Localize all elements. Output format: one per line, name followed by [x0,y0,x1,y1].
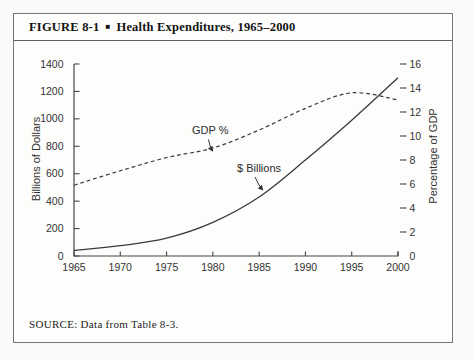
right-axis-tick-label: 14 [410,82,422,94]
left-axis-tick-label: 1400 [40,58,64,70]
right-axis-tick-label: 2 [410,226,416,238]
health-expenditures-chart: 0200400600800100012001400196519701975198… [0,0,473,360]
right-axis-tick-label: 8 [410,154,416,166]
left-axis-tick-label: 200 [46,222,64,234]
dollar-billions-line [74,78,398,251]
right-axis-tick-label: 10 [410,130,422,142]
right-axis-tick-label: 12 [410,106,422,118]
right-axis-title: Percentage of GDP [427,86,439,226]
left-axis-tick-label: 1200 [40,85,64,97]
x-axis-tick-label: 1975 [155,261,179,273]
x-axis-tick-label: 2000 [386,261,410,273]
x-axis-tick-label: 1970 [109,261,133,273]
x-axis-tick-label: 1965 [62,261,86,273]
left-axis-tick-label: 400 [46,195,64,207]
left-axis-title: Billions of Dollars [30,89,42,229]
left-axis-tick-label: 1000 [40,112,64,124]
right-axis-tick-label: 16 [410,58,422,70]
right-axis-tick-label: 6 [410,178,416,190]
right-axis-tick-label: 4 [410,202,416,214]
left-axis-tick-label: 800 [46,140,64,152]
left-axis-tick-label: 600 [46,167,64,179]
billions-annotation-arrow-icon [255,177,263,190]
gdp-percent-line [74,93,398,186]
right-axis-tick-label: 0 [410,250,416,262]
x-axis-tick-label: 1990 [294,261,318,273]
gdp-series-label: GDP % [192,124,228,136]
x-axis-tick-label: 1985 [247,261,271,273]
billions-series-label: $ Billions [237,162,281,174]
x-axis-tick-label: 1995 [340,261,364,273]
x-axis-tick-label: 1980 [201,261,225,273]
